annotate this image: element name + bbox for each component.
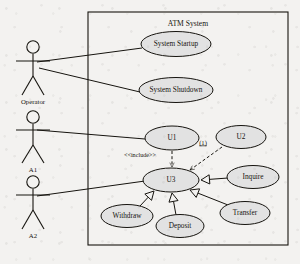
actor-head-icon <box>27 176 39 188</box>
use-case-deposit[interactable]: Deposit <box>156 215 204 238</box>
include-stereotype-label: <<include>> <box>124 151 157 158</box>
generalization-line <box>198 193 228 205</box>
generalization-inquire-to-u3[interactable] <box>201 175 228 184</box>
uml-use-case-diagram: ATM System OperatorA1A2 System StartupSy… <box>0 0 300 264</box>
generalization-line <box>209 178 228 179</box>
use-case-u2[interactable]: U2 <box>216 126 266 149</box>
use-case-u3[interactable]: U3 <box>143 168 199 192</box>
generalization-triangle-arrowhead <box>169 193 178 202</box>
use-case-label: Transfer <box>233 208 258 217</box>
actor-label: A2 <box>29 232 38 239</box>
dependency-label: (1) <box>199 139 207 147</box>
use-case-transfer[interactable]: Transfer <box>220 202 270 225</box>
use-case-label: U3 <box>167 175 176 184</box>
actor-head-icon <box>27 41 39 53</box>
generalization-transfer-to-u3[interactable] <box>190 189 228 205</box>
use-case-label: System Startup <box>154 39 199 48</box>
use-case-system_startup[interactable]: System Startup <box>141 32 211 57</box>
actor-leg-right <box>33 145 44 163</box>
association-a2-u3[interactable] <box>37 181 145 196</box>
association-a1-u1[interactable] <box>37 130 145 139</box>
use-cases-layer: System StartupSystem ShutdownU1U2U3Inqui… <box>101 32 279 238</box>
system-boundary-title: ATM System <box>168 19 208 28</box>
actor-label: A1 <box>29 166 37 173</box>
use-case-label: U2 <box>237 132 246 141</box>
actor-leg-right <box>33 210 44 229</box>
dependency-layer <box>172 147 222 170</box>
actors-layer: OperatorA1A2 <box>16 41 50 239</box>
association-operator-system-shutdown[interactable] <box>39 68 140 92</box>
generalization-triangle-arrowhead <box>190 189 200 198</box>
use-case-diagram-canvas: ATM System OperatorA1A2 System StartupSy… <box>0 0 300 264</box>
generalization-line <box>174 201 176 215</box>
use-case-u1[interactable]: U1 <box>145 126 199 150</box>
generalization-line <box>140 197 148 206</box>
use-case-label: System Shutdown <box>150 85 203 94</box>
use-case-inquire[interactable]: Inquire <box>227 166 279 189</box>
actor-leg-left <box>22 210 33 229</box>
actor-leg-left <box>22 145 33 163</box>
generalization-deposit-to-u3[interactable] <box>169 193 178 215</box>
association-operator-system-startup[interactable] <box>37 48 142 62</box>
generalization-triangle-arrowhead <box>201 175 210 184</box>
use-case-label: U1 <box>168 133 177 142</box>
actor-head-icon <box>27 111 39 123</box>
association-lines-layer <box>37 48 145 196</box>
use-case-label: Withdraw <box>113 211 143 220</box>
use-case-label: Deposit <box>169 221 192 230</box>
use-case-withdraw[interactable]: Withdraw <box>101 205 153 228</box>
actor-operator[interactable]: Operator <box>16 41 50 105</box>
use-case-label: Inquire <box>242 172 263 181</box>
actor-leg-right <box>33 76 44 95</box>
use-case-system_shutdown[interactable]: System Shutdown <box>139 78 213 103</box>
actor-a2[interactable]: A2 <box>16 176 50 239</box>
actor-a1[interactable]: A1 <box>16 111 50 173</box>
dependency-u2-depends-u3[interactable] <box>190 147 222 170</box>
actor-label: Operator <box>21 98 46 105</box>
generalization-withdraw-to-u3[interactable] <box>140 191 154 206</box>
actor-leg-left <box>22 76 33 95</box>
